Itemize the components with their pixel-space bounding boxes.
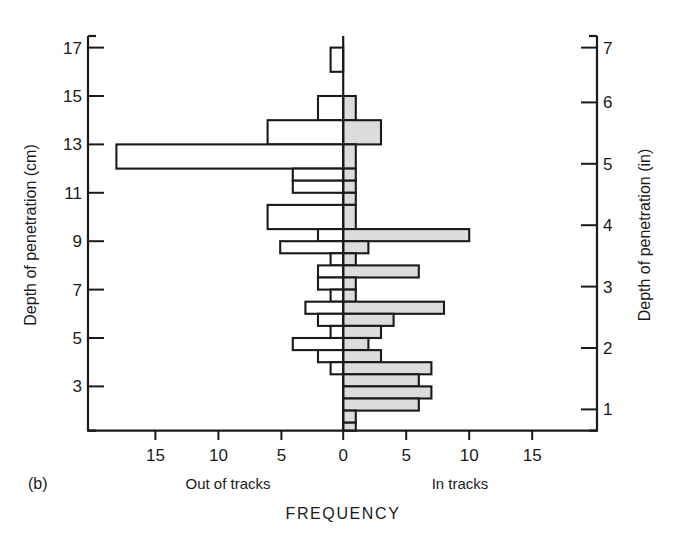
bar-out-9.5 [318,265,343,277]
y-tick-label-cm-13: 13 [63,135,82,154]
in-tracks-label: In tracks [432,475,489,492]
x-tick-label-pos-10: 10 [460,446,479,465]
right-axis-title: Depth of penetration (in) [636,149,653,322]
bar-in-6.0 [343,338,368,350]
bar-out-13.0 [293,169,343,181]
bar-in-13.5 [343,144,356,168]
y-tick-label-cm-15: 15 [63,87,82,106]
y-tick-label-cm-11: 11 [64,184,82,203]
x-tick-label-zero: 0 [338,446,347,465]
panel-label: (b) [28,475,48,492]
bar-in-12.5 [343,181,356,193]
bar-in-8.5 [343,278,356,290]
bar-out-11.0 [318,229,343,241]
left-axis-title: Depth of penetration (cm) [22,144,39,325]
bar-out-10.0 [331,253,344,265]
bar-out-15.5 [318,96,343,120]
bar-in-2.5 [343,423,356,431]
y2-tick-label-in-4: 4 [603,216,612,235]
out-of-tracks-label: Out of tracks [185,475,270,492]
histogram-chart: 17 15 13 11 9 7 5 3 7 6 5 4 3 2 1 [0,0,683,536]
bar-out-13.5 [116,144,343,168]
bar-in-7.5 [343,302,444,314]
x-tick-label-neg-15: 15 [146,446,165,465]
bar-in-10.0 [343,241,368,253]
y-tick-label-cm-17: 17 [63,39,82,58]
bar-out-11.5 [268,205,344,229]
bar-in-5.0 [343,362,431,374]
bar-in-4.0 [343,386,431,398]
bar-out-12.5 [293,181,343,193]
bar-in-10.5 [343,229,469,241]
bar-in-5.5 [343,350,381,362]
bar-in-3.5 [343,399,419,411]
bar-in-11.0 [343,205,356,229]
x-axis-title: FREQUENCY [286,505,401,522]
series-in-tracks [343,96,469,431]
y2-tick-label-in-6: 6 [603,93,612,112]
bar-in-7.0 [343,314,393,326]
bar-out-6.0 [293,338,343,350]
series-out-of-tracks [116,48,343,375]
x-tick-label-neg-5: 5 [277,446,286,465]
bar-in-12.0 [343,193,356,205]
y-tick-label-cm-3: 3 [73,377,82,396]
bar-out-5.5 [318,350,343,362]
right-axis: 7 6 5 4 3 2 1 [581,36,612,431]
left-axis: 17 15 13 11 9 7 5 3 [63,36,104,431]
y2-tick-label-in-7: 7 [603,39,612,58]
bar-in-8.0 [343,290,356,302]
bar-in-9.5 [343,253,356,265]
bar-out-9.0 [318,278,343,290]
bar-in-13.0 [343,169,356,181]
x-tick-label-pos-5: 5 [401,446,410,465]
bar-in-14.5 [343,120,381,144]
y-tick-label-cm-5: 5 [73,329,82,348]
bar-out-8.0 [305,302,343,314]
x-tick-label-pos-15: 15 [523,446,542,465]
y2-tick-label-in-3: 3 [603,278,612,297]
bar-out-14.5 [268,120,344,144]
bar-out-16.5 [331,48,344,72]
y2-tick-label-in-1: 1 [603,400,612,419]
bar-out-10.5 [280,241,343,253]
y-tick-label-cm-7: 7 [73,281,82,300]
bar-in-15.5 [343,96,356,120]
bar-in-3.0 [343,411,356,423]
bar-in-4.5 [343,374,419,386]
y2-tick-label-in-5: 5 [603,155,612,174]
x-tick-label-neg-10: 10 [209,446,228,465]
x-axis: 15 10 5 0 5 10 15 [88,431,597,465]
y-tick-label-cm-9: 9 [73,232,82,251]
bar-out-5.0 [331,362,344,374]
y2-tick-label-in-2: 2 [603,339,612,358]
figure-container: 17 15 13 11 9 7 5 3 7 6 5 4 3 2 1 [0,0,683,536]
bar-out-8.5 [331,290,344,302]
bar-out-7.5 [318,314,343,326]
bar-in-9.0 [343,265,419,277]
bar-out-7.0 [331,326,344,338]
bar-in-6.5 [343,326,381,338]
